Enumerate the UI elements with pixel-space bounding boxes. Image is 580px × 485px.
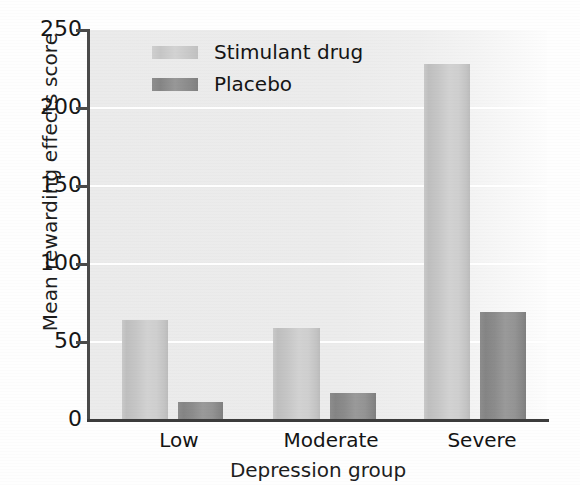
gridline-150 <box>89 185 547 187</box>
bar-severe-stimulant-drug <box>424 64 470 420</box>
x-tick-label-moderate: Moderate <box>283 428 378 452</box>
gridline-200 <box>89 107 547 109</box>
bar-low-placebo <box>178 402 223 420</box>
legend-swatch-icon-placebo <box>152 78 198 91</box>
y-tick-label-0: 0 <box>20 408 82 430</box>
y-axis-spine <box>87 29 90 422</box>
chart-figure: Mean rewarding effects score 250 200 150… <box>0 0 580 485</box>
chart-legend: Stimulant drug Placebo <box>152 36 412 100</box>
legend-entry-placebo: Placebo <box>152 68 412 100</box>
x-tick-label-severe: Severe <box>447 428 516 452</box>
x-axis-title: Depression group <box>89 458 547 482</box>
y-tick-label-50: 50 <box>20 330 82 352</box>
legend-entry-stimulant-drug: Stimulant drug <box>152 36 412 68</box>
x-tick-label-low: Low <box>159 428 198 452</box>
plot-area: Stimulant drug Placebo <box>89 30 547 420</box>
legend-label-placebo: Placebo <box>214 72 292 96</box>
y-tick-label-150: 150 <box>20 174 82 196</box>
x-axis-spine <box>87 419 549 422</box>
gridline-100 <box>89 263 547 265</box>
y-tick-label-200: 200 <box>20 96 82 118</box>
y-tick-label-100: 100 <box>20 252 82 274</box>
x-axis-tick-labels: Low Moderate Severe <box>89 428 547 458</box>
y-axis-tick-labels: 250 200 150 100 50 0 <box>14 0 82 485</box>
legend-label-stimulant-drug: Stimulant drug <box>214 40 363 64</box>
bar-low-stimulant-drug <box>122 320 168 420</box>
bar-severe-placebo <box>480 312 526 420</box>
bar-moderate-stimulant-drug <box>273 328 320 420</box>
y-tick-label-250: 250 <box>20 18 82 40</box>
legend-swatch-icon-stimulant-drug <box>152 46 198 59</box>
bar-moderate-placebo <box>330 393 376 420</box>
